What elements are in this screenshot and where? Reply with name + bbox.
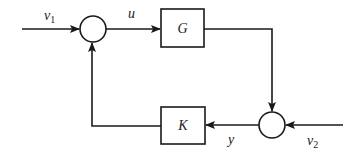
signal-G-output: [204, 29, 272, 111]
summing-junction-2: [259, 112, 285, 138]
label-v1: v1: [44, 8, 55, 25]
feedback-path: [92, 43, 161, 126]
label-u: u: [128, 6, 135, 21]
block-diagram: v1 u G v2 y K: [0, 0, 363, 156]
label-v2: v2: [307, 133, 318, 150]
block-G-label: G: [177, 21, 187, 36]
block-K-label: K: [177, 118, 188, 133]
summing-junction-1: [80, 16, 106, 42]
label-y: y: [226, 132, 235, 147]
